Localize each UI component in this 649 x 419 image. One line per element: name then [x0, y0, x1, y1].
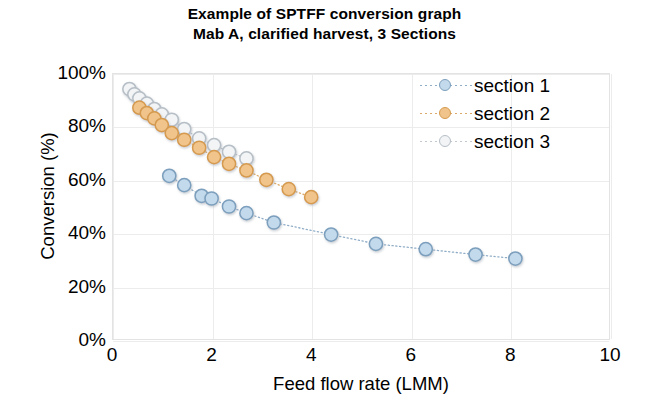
data-point[interactable] — [509, 252, 522, 265]
chart-figure: Example of SPTFF conversion graph Mab A,… — [0, 0, 649, 419]
data-point[interactable] — [260, 173, 273, 186]
data-point[interactable] — [419, 243, 432, 256]
legend-item-label: section 2 — [474, 104, 550, 124]
data-point[interactable] — [267, 216, 280, 229]
x-axis-tick-label: 8 — [490, 344, 530, 366]
x-axis-label: Feed flow rate (LMM) — [112, 373, 610, 395]
chart-title-subtitle: Mab A, clarified harvest, 3 Sections — [0, 24, 649, 44]
legend-marker — [418, 72, 474, 100]
data-point[interactable] — [207, 138, 220, 151]
y-axis-tick-label: 60% — [48, 170, 106, 189]
legend-dot-icon — [439, 107, 451, 119]
data-point[interactable] — [469, 248, 482, 261]
chart-title-line-1: Example of SPTFF conversion graph — [0, 4, 649, 24]
y-axis-tick-label: 100% — [48, 63, 106, 82]
legend-item-3[interactable]: section 3 — [418, 128, 593, 156]
data-point[interactable] — [305, 191, 318, 204]
x-axis-tick-label: 0 — [92, 344, 132, 366]
y-axis-tick-label: 80% — [48, 116, 106, 135]
x-axis-tick-label: 2 — [192, 344, 232, 366]
gridline-vertical — [611, 74, 612, 339]
legend-marker — [418, 128, 474, 156]
data-point[interactable] — [222, 145, 235, 158]
legend-dot-icon — [439, 79, 451, 91]
data-point[interactable] — [282, 183, 295, 196]
x-axis-tick-label: 4 — [291, 344, 331, 366]
legend-item-1[interactable]: section 1 — [418, 72, 593, 100]
data-point[interactable] — [240, 152, 253, 165]
y-axis-tick-labels: 0%20%40%60%80%100% — [46, 73, 106, 340]
legend-item-label: section 1 — [474, 76, 550, 96]
data-point[interactable] — [178, 179, 191, 192]
data-point[interactable] — [222, 157, 235, 170]
legend-item-2[interactable]: section 2 — [418, 100, 593, 128]
data-point[interactable] — [240, 207, 253, 220]
x-axis-tick-label: 6 — [391, 344, 431, 366]
data-point[interactable] — [222, 200, 235, 213]
series-section-3 — [123, 82, 253, 165]
data-point[interactable] — [240, 164, 253, 177]
x-axis-tick-labels: 0246810 — [112, 344, 610, 370]
data-point[interactable] — [205, 192, 218, 205]
data-point[interactable] — [178, 133, 191, 146]
data-point[interactable] — [193, 141, 206, 154]
series-section-1 — [163, 169, 522, 265]
chart-legend: section 1section 2section 3 — [418, 72, 593, 156]
chart-title: Example of SPTFF conversion graph Mab A,… — [0, 4, 649, 44]
series-line — [169, 176, 515, 259]
legend-item-label: section 3 — [474, 132, 550, 152]
y-axis-tick-label: 20% — [48, 277, 106, 296]
legend-marker — [418, 100, 474, 128]
legend-dot-icon — [439, 135, 451, 147]
data-point[interactable] — [163, 169, 176, 182]
gridline-horizontal — [113, 341, 609, 342]
x-axis-tick-label: 10 — [590, 344, 630, 366]
data-point[interactable] — [165, 126, 178, 139]
data-point[interactable] — [369, 237, 382, 250]
data-point[interactable] — [325, 228, 338, 241]
data-point[interactable] — [207, 151, 220, 164]
y-axis-tick-label: 40% — [48, 223, 106, 242]
